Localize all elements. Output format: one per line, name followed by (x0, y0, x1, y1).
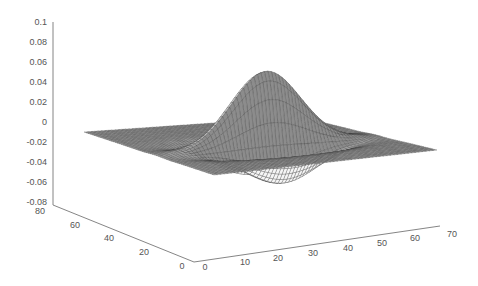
x-tick-label: 60 (410, 233, 420, 243)
z-axis-ticks: 0.1 0.08 0.06 0.04 0.02 0 -0.02 -0.04 -0… (26, 17, 47, 207)
y-tick-label: 0 (179, 261, 184, 271)
y-axis-line (53, 205, 194, 262)
z-tick-label: 0.04 (29, 77, 47, 87)
y-tick-label: 40 (104, 233, 114, 243)
mesh-surface (84, 71, 437, 183)
y-tick-label: 60 (70, 220, 80, 230)
y-axis-ticks: 80 60 40 20 0 (35, 206, 185, 271)
x-tick-label: 10 (240, 257, 250, 267)
y-tick-label: 80 (35, 206, 45, 216)
x-axis-ticks: 0 10 20 30 40 50 60 70 (202, 229, 457, 272)
z-tick-label: 0.08 (29, 37, 47, 47)
x-tick-label: 40 (343, 243, 353, 253)
z-tick-label: 0.06 (29, 57, 47, 67)
surface-plot: 0.1 0.08 0.06 0.04 0.02 0 -0.02 -0.04 -0… (0, 0, 478, 286)
y-tick-label: 20 (139, 247, 149, 257)
x-tick-label: 0 (202, 262, 207, 272)
x-tick-label: 20 (273, 253, 283, 263)
z-tick-label: -0.04 (26, 157, 47, 167)
x-tick-label: 30 (308, 248, 318, 258)
z-tick-label: -0.06 (26, 177, 47, 187)
z-tick-label: 0.02 (29, 97, 47, 107)
x-tick-label: 70 (447, 229, 457, 239)
z-tick-label: -0.02 (26, 137, 47, 147)
z-tick-label: 0.1 (34, 17, 47, 27)
z-tick-label: 0 (42, 117, 47, 127)
x-tick-label: 50 (377, 238, 387, 248)
